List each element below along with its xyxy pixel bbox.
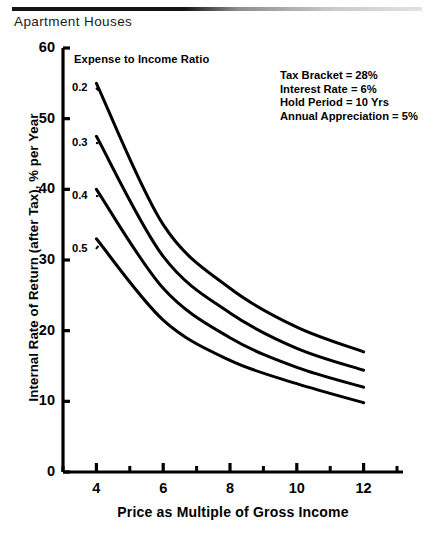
x-axis-tick-label: 10 <box>282 480 312 496</box>
annotation-box: Tax Bracket = 28%Interest Rate = 6%Hold … <box>280 69 418 123</box>
x-axis-tick-label: 8 <box>215 480 245 496</box>
annotation-line: Annual Appreciation = 5% <box>280 110 418 124</box>
series-leader-line <box>96 246 98 249</box>
x-axis-tick-label: 4 <box>81 480 111 496</box>
y-axis-tick-label: 0 <box>21 463 55 479</box>
page-title: Apartment Houses <box>14 14 132 29</box>
chart-figure: 0102030405060 4681012 Internal Rate of R… <box>0 32 437 540</box>
annotation-line: Hold Period = 10 Yrs <box>280 96 418 110</box>
series-label: 0.2 <box>72 81 88 93</box>
x-axis-tick-label: 12 <box>349 480 379 496</box>
y-axis-tick-label: 60 <box>21 39 55 55</box>
x-axis-title: Price as Multiple of Gross Income <box>63 504 403 520</box>
series-line <box>96 239 363 403</box>
legend-title: Expense to Income Ratio <box>74 53 209 65</box>
y-axis-title: Internal Rate of Return (after Tax), % p… <box>26 93 41 423</box>
header-divider <box>12 7 422 11</box>
series-layer <box>96 83 363 402</box>
annotation-line: Tax Bracket = 28% <box>280 69 418 83</box>
series-label: 0.3 <box>72 136 88 148</box>
x-axis-tick-label: 6 <box>148 480 178 496</box>
series-label: 0.4 <box>72 189 88 201</box>
annotation-line: Interest Rate = 6% <box>280 83 418 97</box>
series-leader-lines <box>96 88 98 249</box>
series-label: 0.5 <box>72 242 88 254</box>
